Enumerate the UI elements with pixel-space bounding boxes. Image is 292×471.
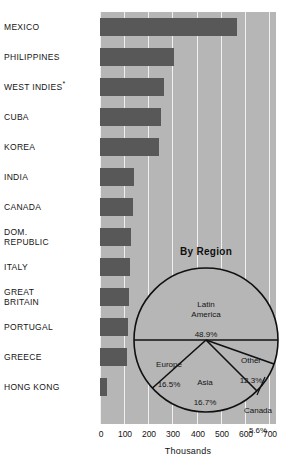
category-label-cuba: CUBA [4,112,90,122]
pie-label-asia-value: 16.7% [194,398,217,407]
bar-west-indies[interactable] [100,78,164,96]
xtick-0: 0 [99,428,104,440]
category-label-portugal: PORTUGAL [4,322,90,332]
category-labels: MEXICO PHILIPPINES WEST INDIES* CUBA KOR… [0,12,96,424]
pie-label-canada: Canada 5.6% [233,396,283,436]
pie-label-latin-america-name: Latin America [191,300,220,319]
pie-label-other-name: Other [241,356,261,365]
category-label-hong-kong: HONG KONG [4,382,90,392]
category-label-dom-republic: DOM. REPUBLIC [4,227,90,247]
bar-row [100,168,276,186]
bar-mexico[interactable] [100,18,237,36]
west-indies-text: WEST INDIES [4,82,62,92]
category-label-philippines: PHILIPPINES [4,52,90,62]
pie-label-latin-america-value: 48.9% [195,330,218,339]
xtick-100: 100 [118,428,132,440]
bar-row [100,228,276,246]
category-label-italy: ITALY [4,262,90,272]
bar-row [100,18,276,36]
category-label-india: INDIA [4,172,90,182]
pie-label-latin-america: Latin America 48.9% [167,290,245,340]
pie-inset: By Region Latin America 48.9% Europe 16.… [129,246,283,426]
xtick-500: 500 [215,428,229,440]
pie-label-asia: Asia 16.7% [181,368,229,408]
bar-hong-kong[interactable] [100,378,107,396]
xtick-200: 200 [142,428,156,440]
bar-italy[interactable] [100,258,130,276]
category-label-korea: KOREA [4,142,90,152]
bar-portugal[interactable] [100,318,128,336]
bar-row [100,108,276,126]
x-axis-title: Thousands [100,446,276,456]
footnote-marker: * [62,80,65,87]
bar-india[interactable] [100,168,134,186]
xtick-400: 400 [191,428,205,440]
pie-title: By Region [129,246,283,257]
pie-label-other: Other 12.3% [227,346,275,386]
pie-label-canada-name: Canada [244,406,272,415]
bar-cuba[interactable] [100,108,161,126]
bar-row [100,138,276,156]
bar-philippines[interactable] [100,48,174,66]
bar-row [100,198,276,216]
bar-dom-republic[interactable] [100,228,131,246]
pie-label-europe-name: Europe [156,360,182,369]
category-label-canada: CANADA [4,202,90,212]
bar-great-britain[interactable] [100,288,129,306]
pie-label-europe-value: 16.5% [158,380,181,389]
category-label-great-britain: GREAT BRITAIN [4,287,90,307]
immigration-bar-chart-figure: MEXICO PHILIPPINES WEST INDIES* CUBA KOR… [0,0,292,471]
bar-row [100,78,276,96]
xtick-300: 300 [166,428,180,440]
pie-label-other-value: 12.3% [240,376,263,385]
category-label-greece: GREECE [4,352,90,362]
category-label-mexico: MEXICO [4,22,90,32]
pie-label-asia-name: Asia [197,378,213,387]
category-label-west-indies: WEST INDIES* [4,82,90,92]
pie-label-canada-value: 5.6% [249,426,267,435]
bar-canada[interactable] [100,198,133,216]
bar-row [100,48,276,66]
bar-korea[interactable] [100,138,159,156]
bar-greece[interactable] [100,348,127,366]
